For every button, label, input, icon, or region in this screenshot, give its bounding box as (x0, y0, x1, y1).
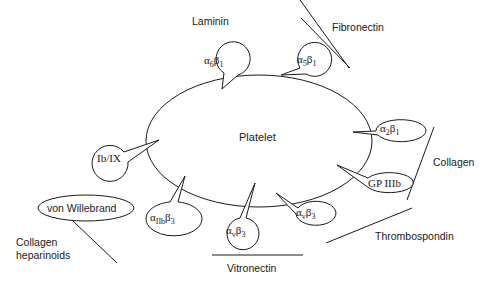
ligand-von-willebrand: von Willebrand (47, 202, 117, 214)
platelet-label: Platelet (239, 131, 276, 143)
platelet-receptor-diagram: Platelet Laminin α6β1 Fibronectin α5β1 α… (0, 0, 493, 283)
ligand-collagen-heparinoids-line1: Collagen (16, 236, 58, 248)
ligand-laminin: Laminin (192, 15, 229, 27)
ligand-vitronectin: Vitronectin (227, 262, 277, 274)
receptor-gp3b-label: GP IIIb (368, 177, 401, 189)
von-willebrand-line (73, 221, 117, 263)
diagram-svg: Platelet Laminin α6β1 Fibronectin α5β1 α… (0, 0, 493, 283)
ligand-collagen: Collagen (433, 156, 475, 168)
ligand-collagen-heparinoids-line2: heparinoids (16, 249, 70, 261)
receptor-gp1b9-label: Ib/IX (97, 152, 121, 164)
ligand-thrombospondin: Thrombospondin (375, 230, 454, 242)
receptor-avb3-bubble (227, 183, 259, 250)
ligand-fibronectin: Fibronectin (332, 21, 384, 33)
